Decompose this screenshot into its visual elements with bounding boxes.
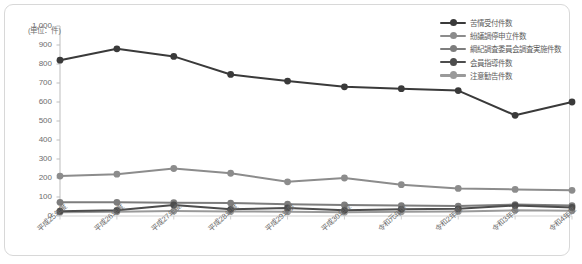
series-point — [512, 112, 519, 119]
series-point — [284, 178, 291, 185]
series-line — [60, 210, 572, 212]
y-axis-tick-label: 800 — [18, 59, 52, 68]
series-point — [227, 170, 234, 177]
y-axis-tick-label: 700 — [18, 78, 52, 87]
series-point — [341, 175, 348, 182]
series-point — [569, 99, 576, 106]
y-axis-tick-label: 400 — [18, 135, 52, 144]
series-point — [227, 71, 234, 78]
legend-marker-icon — [440, 30, 466, 41]
series-point — [512, 186, 519, 193]
y-axis-tick-label: 900 — [18, 40, 52, 49]
legend-marker-icon — [440, 70, 466, 81]
y-axis-tick-label: 1,000 — [18, 21, 52, 30]
legend-item[interactable]: 会員指導件数 — [440, 56, 561, 69]
legend-label: 苦情受付件数 — [466, 17, 512, 28]
series-line — [60, 202, 572, 206]
series-point — [113, 45, 120, 52]
y-axis-tick-label: 200 — [18, 173, 52, 182]
chart-legend: 苦情受付件数紛議調停申立件数綱紀調査委員会調査実施件数会員指導件数注意勧告件数 — [440, 16, 561, 82]
legend-label: 紛議調停申立件数 — [466, 30, 526, 41]
legend-dot — [450, 71, 458, 79]
y-axis-tick-label: 500 — [18, 116, 52, 125]
legend-item[interactable]: 苦情受付件数 — [440, 16, 561, 29]
legend-dot — [450, 58, 458, 66]
legend-item[interactable]: 綱紀調査委員会調査実施件数 — [440, 42, 561, 55]
legend-dot — [450, 45, 458, 53]
legend-marker-icon — [440, 17, 466, 28]
series-point — [170, 53, 177, 60]
series-point — [57, 57, 64, 64]
y-axis-tick-label: 300 — [18, 154, 52, 163]
legend-label: 注意勧告件数 — [466, 70, 512, 81]
legend-item[interactable]: 紛議調停申立件数 — [440, 29, 561, 42]
y-axis-tick-label: 100 — [18, 192, 52, 201]
legend-label: 綱紀調査委員会調査実施件数 — [466, 43, 561, 54]
series-point — [170, 165, 177, 172]
legend-item[interactable]: 注意勧告件数 — [440, 69, 561, 82]
y-axis-tick-label: 600 — [18, 97, 52, 106]
legend-dot — [450, 32, 458, 40]
series-line — [60, 169, 572, 191]
series-point — [398, 181, 405, 188]
series-point — [284, 78, 291, 85]
legend-marker-icon — [440, 43, 466, 54]
series-point — [341, 83, 348, 90]
legend-dot — [450, 19, 458, 27]
legend-label: 会員指導件数 — [466, 57, 512, 68]
series-point — [57, 173, 64, 180]
series-point — [569, 187, 576, 194]
series-point — [455, 87, 462, 94]
series-point — [455, 185, 462, 192]
legend-marker-icon — [440, 57, 466, 68]
series-point — [113, 171, 120, 178]
series-point — [398, 85, 405, 92]
